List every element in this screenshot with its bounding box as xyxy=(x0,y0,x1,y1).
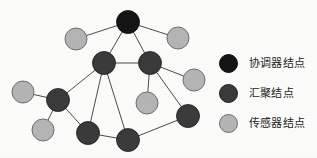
graph-node-coordinator xyxy=(117,11,140,34)
graph-node-aggregation xyxy=(47,89,70,112)
graph-node-sensor xyxy=(183,69,205,91)
legend-label-aggregation: 汇聚结点 xyxy=(249,87,294,100)
legend-item-aggregation: 汇聚结点 xyxy=(214,78,317,108)
legend: 协调器结点 汇聚结点 传感器结点 xyxy=(214,48,317,148)
legend-label-coordinator: 协调器结点 xyxy=(249,57,305,70)
legend-item-sensor: 传感器结点 xyxy=(214,108,317,138)
graph-node-sensor xyxy=(32,119,54,141)
graph-edge xyxy=(104,63,128,140)
graph-node-aggregation xyxy=(77,122,100,145)
node-layer xyxy=(12,11,205,152)
legend-item-coordinator: 协调器结点 xyxy=(214,48,317,78)
coordinator-filled-circle-icon xyxy=(219,54,238,73)
legend-label-sensor: 传感器结点 xyxy=(249,117,305,130)
graph-node-sensor xyxy=(136,92,158,114)
graph-node-aggregation xyxy=(117,129,140,152)
graph-node-aggregation xyxy=(139,52,162,75)
sensor-filled-circle-icon xyxy=(219,114,238,133)
graph-node-sensor xyxy=(65,28,87,50)
graph-node-sensor xyxy=(167,27,189,49)
aggregation-filled-circle-icon xyxy=(219,84,238,103)
graph-node-aggregation xyxy=(177,105,200,128)
graph-node-aggregation xyxy=(93,52,116,75)
network-topology-figure: 协调器结点 汇聚结点 传感器结点 xyxy=(0,0,317,158)
graph-node-sensor xyxy=(12,81,34,103)
